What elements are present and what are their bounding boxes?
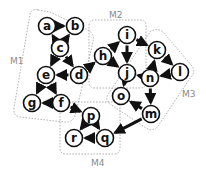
edge-e-to-f	[51, 84, 56, 93]
module-label-m1: M1	[10, 56, 24, 66]
module-graph: M1 M2 M3 M4 abcdefghijklnomprq	[0, 0, 206, 176]
node-i: i	[119, 27, 136, 44]
node-n: n	[142, 70, 159, 87]
node-q: q	[97, 130, 114, 147]
node-g: g	[24, 95, 41, 112]
node-label: l	[178, 65, 182, 79]
edge-l-to-n	[161, 74, 169, 76]
edge-c-to-b	[66, 36, 69, 40]
node-label: c	[56, 41, 63, 55]
node-d: d	[71, 67, 88, 84]
node-k: k	[149, 42, 166, 59]
node-label: h	[99, 49, 108, 63]
node-b: b	[67, 18, 84, 35]
node-label: d	[75, 68, 84, 82]
node-label: j	[124, 66, 129, 80]
nodes: abcdefghijklnomprq	[24, 18, 189, 147]
edge-f-to-p	[71, 107, 81, 111]
edge-n-to-k	[153, 61, 155, 68]
node-j: j	[119, 65, 136, 82]
node-r: r	[66, 130, 83, 147]
node-label: r	[71, 131, 77, 145]
node-o: o	[113, 88, 130, 105]
edge-i-to-k	[136, 40, 146, 45]
edge-c-to-a	[53, 36, 55, 39]
node-label: a	[43, 19, 51, 33]
node-h: h	[95, 48, 112, 65]
edge-h-to-j	[112, 62, 118, 66]
module-label-m2: M2	[109, 10, 123, 20]
edge-c-to-d	[66, 57, 72, 66]
module-label-m3: M3	[182, 89, 196, 99]
node-f: f	[53, 95, 70, 112]
node-a: a	[39, 18, 56, 35]
edge-p-to-q	[97, 125, 99, 128]
node-l: l	[172, 64, 189, 81]
node-p: p	[83, 108, 100, 125]
node-m: m	[143, 106, 160, 123]
edge-c-to-e	[51, 57, 55, 65]
node-label: f	[58, 96, 64, 110]
node-c: c	[52, 40, 69, 57]
edge-h-to-i	[111, 43, 118, 50]
edge-m-to-q	[115, 119, 142, 133]
node-label: b	[71, 19, 80, 33]
node-label: k	[153, 43, 162, 57]
node-e: e	[38, 67, 55, 84]
node-label: n	[146, 71, 155, 85]
edge-k-to-l	[165, 57, 172, 64]
node-label: q	[101, 131, 110, 145]
node-label: p	[87, 109, 96, 123]
node-label: o	[117, 89, 125, 103]
edge-e-to-g	[37, 84, 41, 92]
edge-m-to-o	[131, 102, 142, 109]
edge-d-to-h	[87, 63, 94, 68]
edge-p-to-r	[81, 124, 85, 129]
node-label: e	[42, 68, 50, 82]
node-label: m	[145, 107, 158, 121]
module-label-m4: M4	[91, 158, 105, 168]
node-label: g	[28, 96, 37, 110]
node-label: i	[125, 28, 129, 42]
